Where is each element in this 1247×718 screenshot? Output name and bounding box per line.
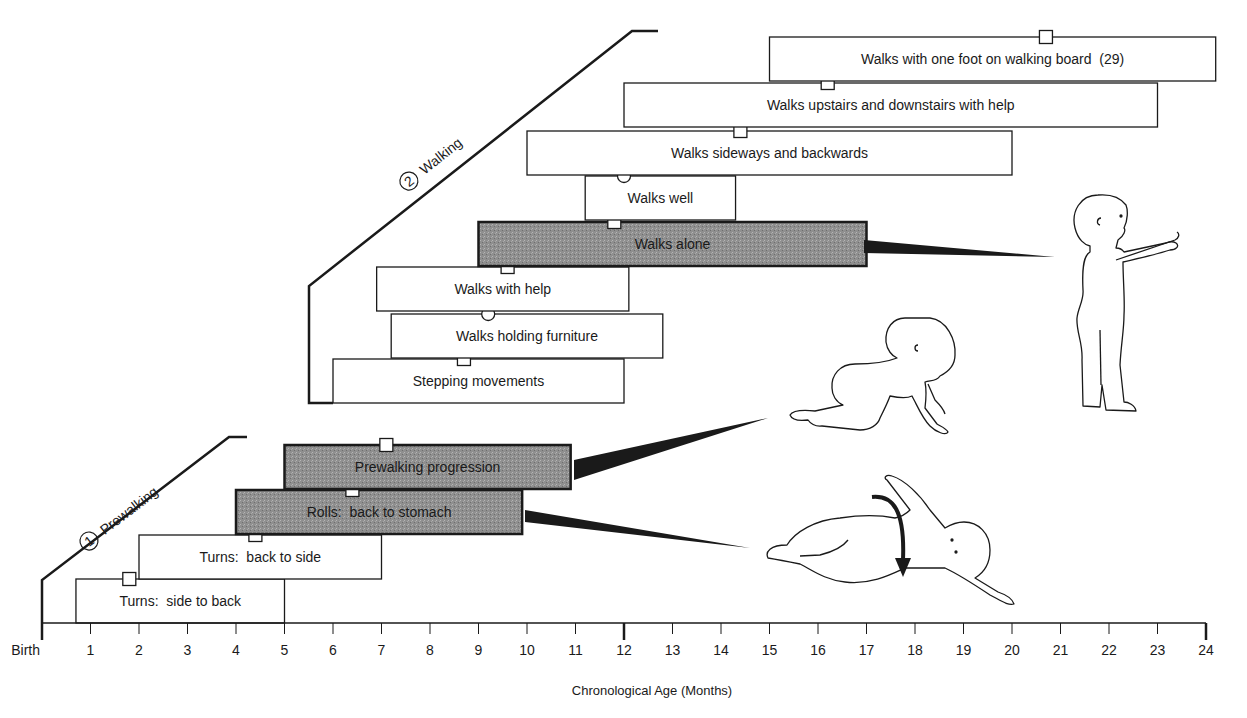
tick-label: 8 (426, 642, 434, 658)
tick-label: Birth (11, 642, 40, 658)
tick-label: 15 (762, 642, 778, 658)
milestone-label: Turns: back to side (199, 549, 321, 565)
tick-label: 6 (329, 642, 337, 658)
milestone-label: Walks with one foot on walking board (29… (861, 51, 1124, 67)
tick-label: 11 (568, 642, 583, 658)
tick-label: 9 (475, 642, 483, 658)
tick-label: 12 (616, 642, 632, 658)
tick-label: 20 (1004, 642, 1020, 658)
tick-label: 19 (956, 642, 972, 658)
milestone-bar: Prewalking progression (285, 439, 571, 490)
milestone-label: Walks holding furniture (456, 328, 598, 344)
tick-label: 24 (1198, 642, 1214, 658)
tick-label: 23 (1150, 642, 1166, 658)
milestone-label: Walks alone (635, 236, 711, 252)
milestone-bar: Walks with one foot on walking board (29… (770, 31, 1216, 82)
milestone-bar: Walks upstairs and downstairs with help (624, 77, 1158, 128)
milestone-label: Rolls: back to stomach (307, 504, 452, 520)
milestone-bar: Walks sideways and backwards (527, 125, 1012, 176)
standing-toddler-illustration (1074, 195, 1179, 411)
tick-label: 3 (184, 642, 192, 658)
milestone-label: Walks upstairs and downstairs with help (767, 97, 1015, 113)
milestone-label: Turns: side to back (119, 593, 242, 609)
x-axis: Birth12345678910111213141516171819202122… (11, 623, 1214, 698)
rolling-infant-illustration (767, 475, 1014, 604)
tick-label: 21 (1053, 642, 1069, 658)
tick-label: 13 (665, 642, 681, 658)
tick-label: 1 (87, 642, 95, 658)
milestone-bar: Rolls: back to stomach (236, 484, 522, 535)
milestone-label: Walks well (628, 190, 694, 206)
median-marker-square (380, 439, 393, 452)
x-axis-title: Chronological Age (Months) (572, 683, 732, 698)
tick-label: 18 (907, 642, 923, 658)
milestone-bar: Walks holding furniture (391, 308, 663, 359)
milestone-bar: Turns: side to back (76, 573, 285, 624)
phase-label-walking: Walking (416, 134, 465, 177)
tick-label: 5 (281, 642, 289, 658)
median-marker-square (123, 573, 136, 586)
crawling-infant-illustration (790, 318, 955, 434)
tick-label: 10 (519, 642, 535, 658)
milestone-bar: Walks alone (479, 216, 867, 267)
tick-label: 16 (810, 642, 826, 658)
milestone-label: Prewalking progression (355, 459, 501, 475)
phase-label-prewalking: Prewalking (97, 483, 161, 537)
milestone-bar: Turns: back to side (139, 529, 382, 580)
milestone-label: Walks sideways and backwards (671, 145, 868, 161)
milestone-label: Stepping movements (413, 373, 545, 389)
milestone-bar: Walks well (585, 170, 735, 221)
tick-label: 14 (713, 642, 729, 658)
tick-label: 22 (1101, 642, 1117, 658)
tick-label: 7 (378, 642, 386, 658)
median-marker-square (1039, 31, 1052, 44)
tick-label: 4 (232, 642, 240, 658)
tick-label: 17 (859, 642, 875, 658)
milestone-bar: Walks with help (377, 261, 629, 312)
milestone-label: Walks with help (454, 281, 551, 297)
milestone-chart: 1 Prewalking 2 Walking Turns: side to ba… (0, 0, 1247, 718)
milestone-bar: Stepping movements (333, 353, 624, 404)
tick-label: 2 (135, 642, 143, 658)
